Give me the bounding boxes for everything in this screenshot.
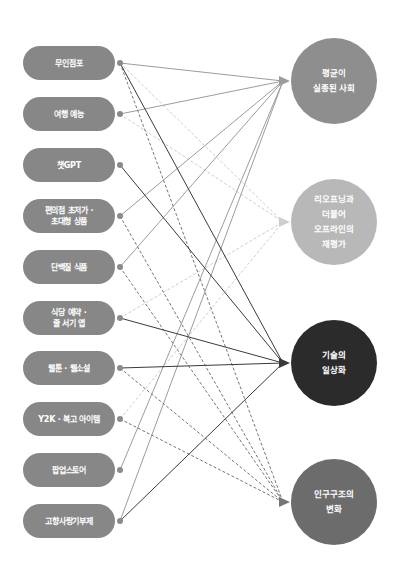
target-node-offline-reevaluation: 리오프닝과 더불어 오프라인의 재평가 — [291, 179, 377, 265]
edge-s7-D — [120, 419, 283, 502]
source-node-convenience-store: 편의점 초저가 · 초대형 상품 — [23, 199, 115, 233]
source-node-webtoon: 웹툰 · 웹소설 — [23, 351, 115, 385]
edge-s0-C — [120, 63, 283, 363]
arrowhead-icon — [279, 497, 290, 507]
source-node-travel-show: 여행 예능 — [23, 97, 115, 131]
source-node-chatgpt: 챗GPT — [23, 148, 115, 182]
edge-s3-D — [120, 216, 283, 502]
arrowhead-icon — [279, 217, 290, 227]
edge-s0-D — [120, 63, 283, 502]
connector-dot — [117, 315, 123, 321]
source-node-restaurant-app: 식당 예약 · 줄 서기 앱 — [23, 301, 115, 335]
edge-s5-C — [120, 318, 283, 363]
edge-s2-C — [120, 165, 283, 363]
source-node-popup-store: 팝업스토어 — [23, 453, 115, 487]
source-node-hometown-donation: 고향사랑기부제 — [23, 504, 115, 538]
target-node-society-without-average: 평균이 실종된 사회 — [291, 38, 377, 124]
edge-s6-C — [120, 363, 283, 368]
connector-dot — [117, 264, 123, 270]
target-node-tech-everyday: 기술의 일상화 — [291, 320, 377, 406]
edge-s9-A — [120, 81, 283, 521]
connector-dot — [117, 213, 123, 219]
connector-dot — [117, 111, 123, 117]
edge-s3-A — [120, 81, 283, 216]
connector-dot — [117, 518, 123, 524]
source-node-protein-food: 단백질 식품 — [23, 250, 115, 284]
edge-s8-A — [120, 81, 283, 470]
edge-s0-A — [120, 63, 283, 81]
edge-s7-B — [120, 222, 283, 419]
connector-dot — [117, 162, 123, 168]
edge-s5-B — [120, 222, 283, 318]
connector-dot — [117, 60, 123, 66]
arrowhead-icon — [279, 358, 290, 368]
edge-s9-C — [120, 363, 283, 521]
target-node-demographic-change: 인구구조의 변화 — [291, 459, 377, 545]
connector-dot — [117, 416, 123, 422]
connector-dot — [117, 365, 123, 371]
source-node-y2k: Y2K · 복고 아이템 — [23, 402, 115, 436]
connector-dot — [117, 467, 123, 473]
arrowhead-icon — [279, 76, 290, 86]
source-node-unmanned-store: 무인점포 — [23, 46, 115, 80]
edge-s0-B — [120, 63, 283, 222]
